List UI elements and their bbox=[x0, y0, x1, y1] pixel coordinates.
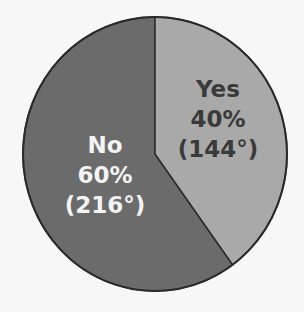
label-no-angle: (216°) bbox=[65, 192, 146, 218]
label-no-name: No bbox=[87, 132, 122, 158]
label-yes-percent: 40% bbox=[190, 106, 245, 132]
label-no-percent: 60% bbox=[77, 162, 132, 188]
label-yes-angle: (144°) bbox=[178, 136, 259, 162]
pie-chart: Yes 40% (144°) No 60% (216°) bbox=[0, 0, 304, 312]
label-yes-name: Yes bbox=[195, 76, 240, 102]
